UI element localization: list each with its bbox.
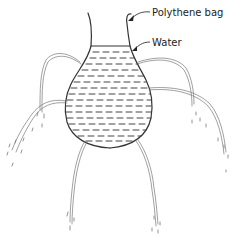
water-leader	[135, 42, 150, 49]
water-arrowhead-icon	[132, 46, 137, 51]
water-jets	[12, 54, 226, 227]
label-polythene-bag: Polythene bag	[152, 8, 223, 18]
jet-middle-right	[149, 88, 226, 154]
jet-middle-left	[12, 100, 67, 152]
bag-left-edge	[65, 13, 110, 148]
diagram-canvas	[0, 0, 237, 238]
bag-right-edge	[110, 14, 152, 148]
water	[66, 46, 151, 141]
jet-bottom-left	[70, 141, 87, 224]
bag-arrowhead-icon	[128, 15, 134, 21]
leader-lines	[128, 12, 150, 51]
jet-upper-left	[40, 54, 81, 113]
label-water: Water	[152, 38, 182, 48]
polythene-bag	[65, 13, 152, 148]
jet-bottom-right	[136, 140, 158, 226]
